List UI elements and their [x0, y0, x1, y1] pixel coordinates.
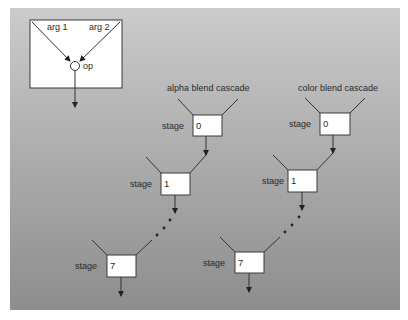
- stage-label: stage: [203, 258, 225, 268]
- op-label: op: [83, 61, 93, 71]
- stage-label: stage: [75, 261, 97, 271]
- ellipsis-dot: [284, 231, 287, 234]
- ellipsis-dot: [298, 216, 301, 219]
- stage-label: stage: [262, 176, 284, 186]
- ellipsis-dot: [156, 234, 159, 237]
- stage-number: 0: [323, 118, 328, 129]
- stage-label: stage: [162, 121, 184, 131]
- stage-number: 7: [110, 260, 115, 271]
- blend-cascade-diagram: arg 1 arg 2 op alpha blend cascade stage…: [0, 0, 408, 320]
- op-circle-icon: [71, 62, 80, 71]
- ellipsis-dot: [291, 224, 294, 227]
- ellipsis-dot: [163, 227, 166, 230]
- cascade-title: color blend cascade: [298, 83, 378, 93]
- arg2-label: arg 2: [89, 22, 110, 32]
- stage-number: 0: [196, 120, 201, 131]
- cascade-title: alpha blend cascade: [167, 83, 250, 93]
- stage-label: stage: [130, 179, 152, 189]
- arg1-label: arg 1: [47, 22, 68, 32]
- ellipsis-dot: [169, 219, 172, 222]
- stage-label: stage: [289, 119, 311, 129]
- stage-number: 1: [291, 175, 296, 186]
- stage-number: 7: [238, 257, 243, 268]
- stage-number: 1: [164, 178, 169, 189]
